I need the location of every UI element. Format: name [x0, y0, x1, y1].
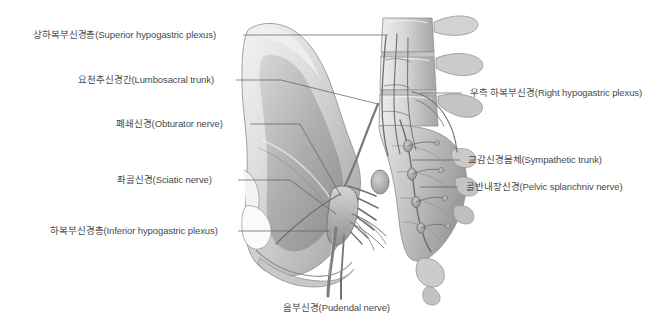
- illustration-body: [236, 16, 483, 305]
- label-superior-hypogastric-plexus: 상하복부신경총(Superior hypogastric plexus): [33, 29, 216, 41]
- label-sciatic-nerve: 좌골신경(Sciatic nerve): [117, 174, 212, 186]
- label-pelvic-splanchnic-nerve: 골반내장신경(Pelvic splanchniv nerve): [466, 181, 623, 193]
- sacrum: [379, 125, 478, 305]
- label-inferior-hypogastric-plexus: 하복부신경총(Inferior hypogastric plexus): [50, 225, 218, 237]
- label-sympathetic-trunk: 교감신경몸체(Sympathetic trunk): [468, 154, 602, 166]
- label-lumbosacral-trunk: 요천추신경간(Lumbosacral trunk): [78, 74, 214, 86]
- label-obturator-nerve: 폐쇄신경(Obturator nerve): [116, 118, 223, 130]
- pudendal-nerve: [341, 236, 344, 299]
- label-right-hypogastric-plexus: 우측 하복부신경(Right hypogastric plexus): [470, 87, 642, 99]
- label-pudendal-nerve: 음부신경(Pudendal nerve): [283, 302, 390, 314]
